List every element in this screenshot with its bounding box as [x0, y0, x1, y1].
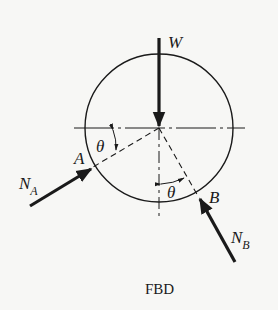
- angle-b-label: θ: [167, 183, 175, 202]
- normal-force-b-arrow: [200, 199, 235, 262]
- angle-a-label: θ: [96, 137, 104, 156]
- free-body-diagram: W NA NB A B θ θ FBD: [0, 0, 278, 310]
- angle-arc-a: [113, 130, 116, 150]
- caption: FBD: [145, 281, 174, 297]
- point-a-label: A: [73, 149, 85, 168]
- radius-to-b: [159, 128, 198, 196]
- normal-force-a-arrow: [30, 169, 91, 206]
- normal-force-a-label: NA: [18, 174, 38, 198]
- weight-label: W: [168, 33, 184, 52]
- normal-force-b-label: NB: [230, 228, 250, 252]
- point-b-label: B: [209, 188, 220, 207]
